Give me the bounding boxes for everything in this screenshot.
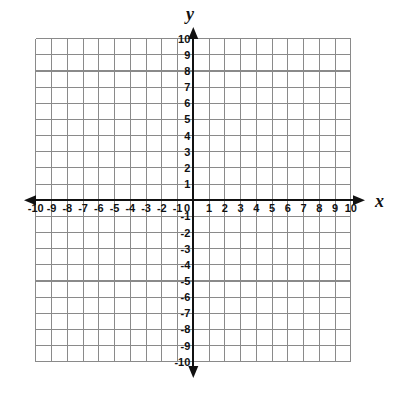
y-axis-tick-label: -8: [181, 323, 191, 335]
x-axis-tick-label: 1: [206, 202, 212, 214]
x-axis-tick-label: -8: [62, 202, 72, 214]
x-axis-tick-label: -5: [110, 202, 120, 214]
y-axis-tick-label: 1: [184, 178, 190, 190]
y-axis-tick-label: -10: [174, 356, 190, 368]
y-axis-tick-label: 3: [184, 146, 190, 158]
y-axis-tick-label: -6: [181, 291, 191, 303]
x-axis-tick-label: -4: [125, 202, 136, 214]
y-axis-tick-label: -5: [181, 275, 191, 287]
y-axis-down-arrowhead: [188, 366, 198, 378]
x-axis-tick-label: -2: [157, 202, 167, 214]
x-axis-tick-label: -7: [78, 202, 88, 214]
x-axis-tick-label: 9: [332, 202, 338, 214]
x-axis-tick-label: -3: [141, 202, 151, 214]
x-axis-tick-label: 3: [237, 202, 243, 214]
coordinate-plane-figure: -10-9-8-7-6-5-4-3-2-112345678910 1098765…: [0, 0, 399, 398]
x-axis-tick-label: 2: [222, 202, 228, 214]
x-axis-tick-label: 6: [285, 202, 291, 214]
y-axis-tick-label: -2: [181, 227, 191, 239]
y-axis-tick-label: -3: [181, 243, 191, 255]
x-axis-tick-label: 4: [253, 202, 260, 214]
y-axis-tick-label: 6: [184, 97, 190, 109]
x-axis-tick-label: -9: [47, 202, 57, 214]
y-axis-tick-label: 4: [184, 130, 191, 142]
coordinate-grid-svg: -10-9-8-7-6-5-4-3-2-112345678910 1098765…: [0, 0, 399, 398]
y-axis-tick-label: 9: [184, 49, 190, 61]
x-axis-label: x: [374, 191, 384, 211]
x-axis-tick-label: 5: [269, 202, 275, 214]
y-axis-tick-label: -4: [181, 259, 192, 271]
x-axis-tick-label: -6: [94, 202, 104, 214]
x-axis-tick-label: 8: [316, 202, 322, 214]
y-axis-tick-label: 10: [178, 33, 190, 45]
x-axis-tick-label: 7: [300, 202, 306, 214]
x-axis-tick-label: 10: [345, 202, 357, 214]
y-axis-tick-label: -9: [181, 340, 191, 352]
y-axis-tick-label: -7: [181, 307, 191, 319]
y-axis-tick-label: 8: [184, 65, 190, 77]
y-axis-tick-label: 2: [184, 162, 190, 174]
x-axis-tick-label: -10: [28, 202, 44, 214]
y-axis-tick-label: 5: [184, 113, 190, 125]
y-axis-label: y: [184, 4, 195, 24]
y-axis-tick-label: 7: [184, 81, 190, 93]
origin-label: 0: [184, 202, 190, 214]
